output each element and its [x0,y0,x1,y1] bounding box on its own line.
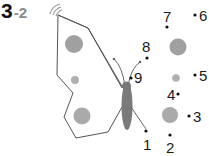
left-wing-outline [58,15,122,88]
dot-label-3: 3 [193,109,201,124]
right-antenna-tip [139,61,142,64]
left-antenna-tip [113,58,116,61]
left-wing-spot-top [65,35,83,53]
left-wing-spot-middle [71,76,79,84]
right-wing-spot-bottom [162,107,178,123]
butterfly-head [122,82,131,91]
dot-7 [165,25,168,28]
dot-1 [144,129,147,132]
dot-label-6: 6 [199,8,207,23]
dot-label-8: 8 [142,39,150,54]
left-wing-outline-path [57,15,123,138]
dot-2 [168,133,171,136]
left-wing-spot-bottom [74,108,91,125]
dot-9 [129,76,132,79]
dot-4 [176,92,179,95]
dot-label-1: 1 [143,137,151,152]
dot-label-7: 7 [163,9,171,24]
body-leg-line [131,107,146,129]
dot-5 [193,73,196,76]
butterfly-drawing [0,0,209,156]
dot-label-2: 2 [166,140,174,155]
dot-label-9: 9 [134,70,142,85]
puzzle-canvas: 3 -2 [0,0,209,156]
right-wing-spot-middle [172,74,180,82]
dot-label-4: 4 [167,87,175,102]
wind-arcs-icon [50,4,62,16]
right-wing-spot-top [170,39,187,56]
dot-6 [193,13,196,16]
dot-8 [145,56,148,59]
dot-label-5: 5 [199,68,207,83]
dot-3 [187,114,190,117]
